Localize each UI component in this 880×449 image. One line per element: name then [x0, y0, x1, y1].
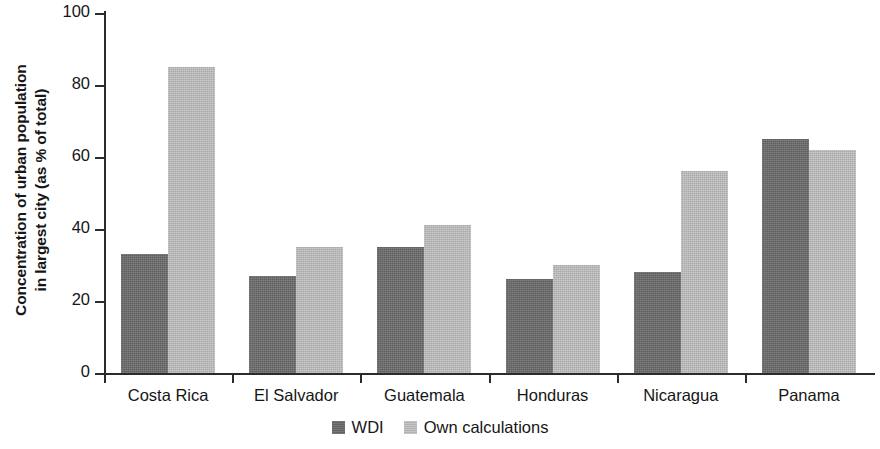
chart-legend: WDIOwn calculations — [0, 418, 880, 437]
legend-swatch-icon — [332, 421, 345, 434]
y-tick-mark — [95, 85, 104, 87]
plot-area — [104, 13, 873, 373]
legend-label: Own calculations — [424, 418, 549, 437]
category-label-nicaragua: Nicaragua — [643, 386, 718, 405]
bar-el-salvador-wdi — [249, 276, 296, 373]
x-tick-mark — [232, 373, 234, 383]
x-tick-mark — [617, 373, 619, 383]
y-tick-mark — [95, 157, 104, 159]
y-tick-label: 20 — [72, 290, 90, 309]
legend-item-wdi: WDI — [332, 418, 384, 437]
legend-swatch-icon — [404, 421, 417, 434]
x-tick-mark — [745, 373, 747, 383]
bar-el-salvador-own-calculations — [296, 247, 343, 373]
category-label-panama: Panama — [778, 386, 839, 405]
bar-guatemala-own-calculations — [424, 225, 471, 373]
y-tick-mark — [95, 373, 104, 375]
category-label-guatemala: Guatemala — [384, 386, 465, 405]
bar-nicaragua-own-calculations — [681, 171, 728, 373]
bar-costa-rica-wdi — [121, 254, 168, 373]
y-tick-label: 80 — [72, 74, 90, 93]
y-axis-title-line-2: in largest city (as % of total) — [31, 64, 51, 316]
y-axis-title: Concentration of urban population in lar… — [0, 0, 62, 380]
legend-label: WDI — [352, 418, 384, 437]
bar-guatemala-wdi — [377, 247, 424, 373]
bar-honduras-own-calculations — [553, 265, 600, 373]
category-label-honduras: Honduras — [517, 386, 589, 405]
y-tick-label: 60 — [72, 146, 90, 165]
y-tick-mark — [95, 301, 104, 303]
category-label-costa-rica: Costa Rica — [128, 386, 209, 405]
category-label-el-salvador: El Salvador — [254, 386, 338, 405]
y-axis-title-line-1: Concentration of urban population — [11, 64, 31, 316]
legend-item-own-calculations: Own calculations — [404, 418, 549, 437]
bar-chart-figure: Concentration of urban population in lar… — [0, 0, 880, 449]
bar-panama-wdi — [762, 139, 809, 373]
x-tick-mark — [360, 373, 362, 383]
y-tick-mark — [95, 13, 104, 15]
bar-honduras-wdi — [506, 279, 553, 373]
x-tick-mark-origin — [104, 373, 106, 383]
y-tick-label: 40 — [72, 218, 90, 237]
y-tick-label: 100 — [62, 2, 90, 21]
y-tick-mark — [95, 229, 104, 231]
bar-nicaragua-wdi — [634, 272, 681, 373]
y-tick-label: 0 — [81, 362, 90, 381]
bar-costa-rica-own-calculations — [168, 67, 215, 373]
x-tick-mark — [489, 373, 491, 383]
bar-panama-own-calculations — [809, 150, 856, 373]
